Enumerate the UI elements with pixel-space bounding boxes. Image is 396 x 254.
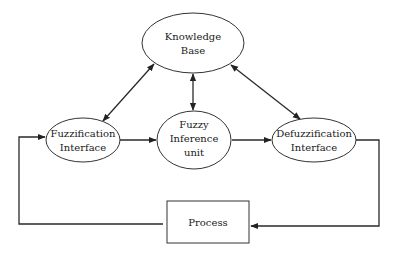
inference-label-2: Inference [170, 133, 219, 144]
process-label: Process [188, 217, 227, 228]
knowledge-base-label-1: Knowledge [165, 31, 221, 42]
inference-label-3: unit [184, 147, 204, 158]
edge-kb-fuzzification [103, 64, 154, 121]
fuzzification-label-1: Fuzzification [50, 128, 116, 139]
defuzzification-label-2: Interface [291, 142, 337, 153]
node-fuzzification-interface: Fuzzification Interface [46, 118, 120, 162]
node-defuzzification-interface: Defuzzification Interface [272, 118, 356, 162]
inference-label-1: Fuzzy [179, 119, 209, 130]
fuzzy-controller-diagram: Knowledge Base Fuzzification Interface F… [0, 0, 396, 254]
edge-kb-defuzzification [231, 65, 300, 119]
fuzzification-label-2: Interface [60, 142, 106, 153]
knowledge-base-label-2: Base [181, 45, 205, 56]
defuzzification-label-1: Defuzzification [276, 128, 352, 139]
node-knowledge-base: Knowledge Base [142, 13, 244, 73]
node-fuzzy-inference-unit: Fuzzy Inference unit [157, 111, 231, 169]
node-process: Process [167, 201, 249, 243]
